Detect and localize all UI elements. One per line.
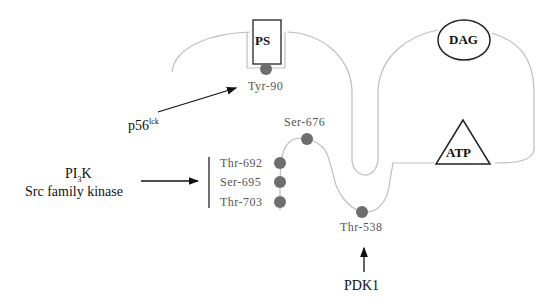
thr692-label: Thr-692 bbox=[220, 156, 263, 171]
src-kinase-label: Src family kinase bbox=[25, 184, 123, 200]
arrow-p56lck bbox=[158, 88, 236, 112]
ser676-label: Ser-676 bbox=[284, 115, 325, 130]
dot-thr692 bbox=[274, 157, 286, 169]
dot-thr538 bbox=[356, 206, 368, 218]
pkc-theta-diagram: PS DAG ATP Tyr-90 Ser-676 Thr-692 Ser-69… bbox=[0, 0, 556, 304]
dot-tyr90 bbox=[260, 63, 272, 75]
ps-label: PS bbox=[255, 33, 270, 49]
tyr90-label: Tyr-90 bbox=[248, 79, 283, 94]
pdk1-label: PDK1 bbox=[344, 278, 379, 294]
dot-ser695 bbox=[274, 176, 286, 188]
dot-ser676 bbox=[301, 133, 313, 145]
dot-thr703 bbox=[274, 196, 286, 208]
atp-label: ATP bbox=[446, 145, 471, 161]
thr538-label: Thr-538 bbox=[340, 220, 383, 235]
p56lck-label: p56lck bbox=[128, 117, 159, 134]
ser695-label: Ser-695 bbox=[220, 175, 261, 190]
pi3k-label: PI3K bbox=[65, 166, 92, 184]
dag-label: DAG bbox=[449, 32, 478, 48]
thr703-label: Thr-703 bbox=[220, 195, 263, 210]
